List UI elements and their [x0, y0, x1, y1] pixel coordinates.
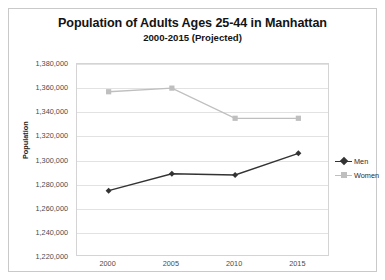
plot-area: [76, 63, 329, 256]
series-line-men: [109, 153, 299, 190]
legend-item-label: Men: [352, 157, 368, 166]
chart-subtitle: 2000-2015 (Projected): [9, 32, 376, 44]
data-point-women[interactable]: [296, 116, 301, 121]
y-axis-tick-label: 1,260,000: [36, 203, 68, 212]
y-axis-tick-label: 1,280,000: [36, 179, 68, 188]
chart-title-block: Population of Adults Ages 25-44 in Manha…: [9, 16, 376, 44]
page-title: Population of Adults Ages 25-44 in Manha…: [9, 16, 376, 31]
legend-item-women[interactable]: Women: [335, 168, 385, 182]
series-line-women: [109, 88, 299, 118]
legend-marker-icon: [335, 157, 352, 166]
legend-item-label: Women: [352, 171, 379, 180]
y-axis-tick-label: 1,300,000: [36, 155, 68, 164]
data-point-men[interactable]: [169, 171, 175, 177]
y-axis-tick-label: 1,240,000: [36, 227, 68, 236]
chart-legend: MenWomen: [335, 154, 385, 182]
legend-marker-icon: [335, 171, 352, 180]
y-axis-tick-labels: 1,380,0001,360,0001,340,0001,320,0001,30…: [9, 63, 72, 256]
y-axis-tick-label: 1,360,000: [36, 83, 68, 92]
data-point-women[interactable]: [106, 89, 111, 94]
y-axis-tick-label: 1,320,000: [36, 131, 68, 140]
legend-item-men[interactable]: Men: [335, 154, 385, 168]
y-axis-tick-label: 1,380,000: [36, 59, 68, 68]
y-axis-tick-label: 1,340,000: [36, 107, 68, 116]
chart-container: Population of Adults Ages 25-44 in Manha…: [8, 8, 377, 272]
x-axis-tick-label: 2005: [163, 259, 179, 268]
series-layer: [77, 64, 330, 257]
data-point-men[interactable]: [232, 172, 238, 178]
data-point-men[interactable]: [295, 150, 301, 156]
y-axis-tick-label: 1,220,000: [36, 252, 68, 261]
x-axis-tick-label: 2010: [226, 259, 242, 268]
x-axis-tick-label: 2015: [289, 259, 305, 268]
data-point-women[interactable]: [233, 116, 238, 121]
data-point-men[interactable]: [106, 188, 112, 194]
x-axis-tick-label: 2000: [100, 259, 116, 268]
data-point-women[interactable]: [169, 86, 174, 91]
x-axis-tick-labels: 2000200520102015: [76, 259, 329, 273]
